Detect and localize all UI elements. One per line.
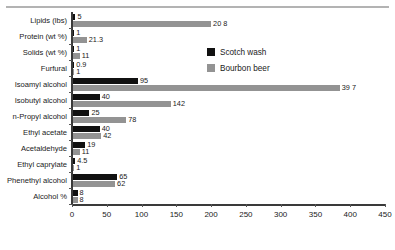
bar-value-label: 39 7 [342,84,356,91]
y-axis-tick [69,156,72,157]
y-axis-tick [69,92,72,93]
bar-group: 6562 [72,172,385,189]
bar-value-label: 142 [173,100,185,107]
bar-scotch-wash [72,94,100,100]
y-axis-tick [69,60,72,61]
bars-area: 520 8121.31110.919539 740142257840421911… [72,12,385,204]
category-axis-labels: Lipids (lbs)Protein (wt %)Solids (wt %)F… [0,12,70,204]
bar-scotch-wash [72,190,78,196]
y-axis-tick [69,108,72,109]
x-axis-tick [385,204,386,207]
bar-value-label: 62 [117,180,125,187]
x-axis-tick [107,204,108,207]
bar-value-label: 78 [128,116,136,123]
chart-figure: Lipids (lbs)Protein (wt %)Solids (wt %)F… [0,0,395,250]
bar-scotch-wash [72,126,100,132]
chart-legend: Scotch wash Bourbon beer [207,45,317,77]
bar-group: 9539 7 [72,76,385,93]
bar-value-label: 5 [77,13,81,20]
bar-bourbon-beer [72,37,87,43]
y-axis-tick [69,44,72,45]
bar-group: 2578 [72,108,385,125]
y-axis-tick [69,172,72,173]
bar-value-label: 1 [76,68,80,75]
category-label: Ethyl acetate [23,124,67,141]
category-label: Ethyl caprylate [17,156,67,173]
category-label: Isobutyl alcohol [15,92,67,109]
bar-scotch-wash [72,78,138,84]
bar-scotch-wash [72,110,89,116]
bar-bourbon-beer [72,85,340,91]
x-axis-tick-label: 450 [365,210,395,219]
category-label: n-Propyl alcohol [13,108,67,125]
bar-value-label: 40 [102,93,110,100]
bar-bourbon-beer [72,181,115,187]
x-axis-tick [72,204,73,207]
category-label: Protein (wt %) [19,28,67,45]
bar-bourbon-beer [72,197,78,203]
legend-label-bourbon-beer: Bourbon beer [220,64,270,73]
legend-item-scotch-wash: Scotch wash [207,45,317,59]
x-axis-tick [281,204,282,207]
bar-value-label: 1 [76,164,80,171]
plot-area: Lipids (lbs)Protein (wt %)Solids (wt %)F… [0,12,395,227]
bar-bourbon-beer [72,53,80,59]
bar-value-label: 11 [82,52,90,59]
category-label: Phenethyl alcohol [7,172,67,189]
bar-group: 1911 [72,140,385,157]
y-axis-tick [69,188,72,189]
bar-bourbon-beer [72,101,171,107]
bar-value-label: 1 [76,29,80,36]
bar-group: 40142 [72,92,385,109]
y-axis-tick [69,140,72,141]
top-divider-rule [6,6,389,8]
x-axis-tick [142,204,143,207]
legend-item-bourbon-beer: Bourbon beer [207,61,317,75]
x-axis-tick [176,204,177,207]
bar-value-label: 8 [80,196,84,203]
bar-group: 121.3 [72,28,385,45]
x-axis-tick [315,204,316,207]
bar-value-label: 25 [91,109,99,116]
bar-value-label: 95 [140,77,148,84]
x-axis-tick [246,204,247,207]
bar-group: 4042 [72,124,385,141]
x-axis-tick [211,204,212,207]
bar-group: 520 8 [72,12,385,29]
x-axis-tick [350,204,351,207]
legend-label-scotch-wash: Scotch wash [220,48,266,57]
bar-bourbon-beer [72,149,80,155]
legend-swatch-scotch-wash [207,48,215,56]
bar-value-label: 20 8 [213,20,227,27]
y-axis-tick [69,204,72,205]
legend-swatch-bourbon-beer [207,64,215,72]
category-label: Isoamyl alcohol [15,76,67,93]
bar-value-label: 21.3 [89,36,103,43]
bar-bourbon-beer [72,133,101,139]
bar-value-label: 1 [76,45,80,52]
bar-group: 88 [72,188,385,205]
bar-group: 4.51 [72,156,385,173]
bar-value-label: 11 [82,148,90,155]
y-axis-tick [69,76,72,77]
y-axis-tick [69,28,72,29]
bar-bourbon-beer [72,21,211,27]
category-label: Furfural [41,60,67,77]
category-label: Solids (wt %) [23,44,67,61]
bar-bourbon-beer [72,117,126,123]
bar-value-label: 42 [103,132,111,139]
category-label: Lipids (lbs) [30,12,67,29]
category-label: Acetaldehyde [21,140,67,157]
bar-scotch-wash [72,174,117,180]
category-label: Alcohol % [33,188,67,205]
y-axis-tick [69,124,72,125]
x-axis-line [72,204,385,206]
